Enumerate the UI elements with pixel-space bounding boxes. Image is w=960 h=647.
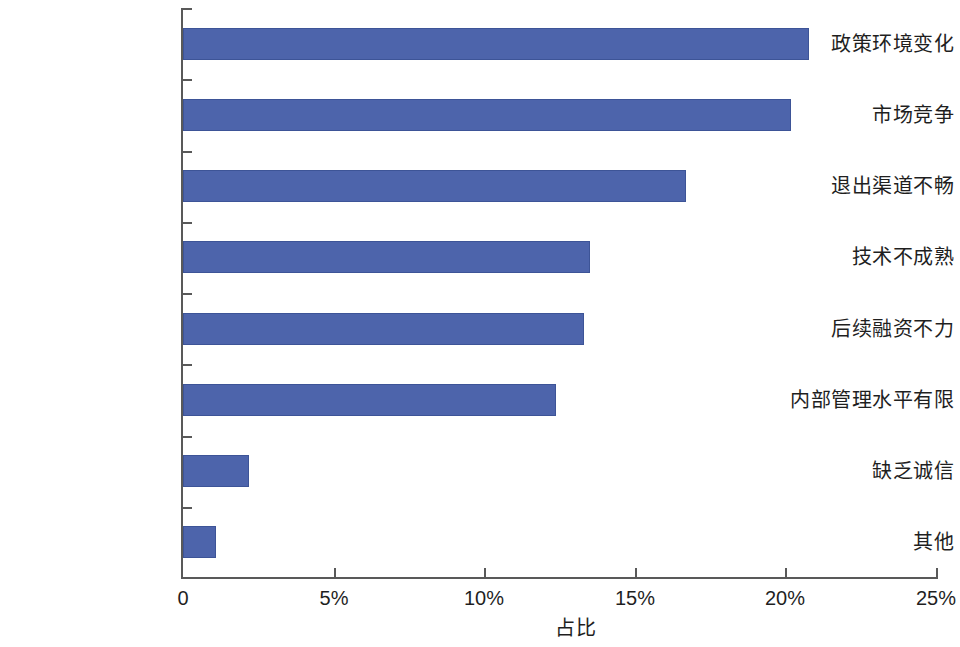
x-axis-tick	[785, 568, 787, 578]
x-axis-title: 占比	[0, 616, 960, 640]
bar-chart: 政策环境变化市场竞争退出渠道不畅技术不成熟后续融资不力内部管理水平有限缺乏诚信其…	[0, 0, 960, 647]
bar	[183, 526, 216, 558]
bar	[183, 313, 584, 345]
x-axis-tick-label: 0	[177, 586, 188, 610]
bar	[183, 384, 556, 416]
y-axis-tick	[183, 507, 192, 509]
y-axis-top-tick	[183, 8, 192, 10]
x-axis-left-cap	[181, 568, 183, 579]
y-axis-tick	[183, 222, 192, 224]
category-label: 政策环境变化	[778, 33, 960, 55]
y-axis-tick	[183, 151, 192, 153]
x-axis-tick-label: 20%	[765, 586, 805, 610]
x-axis-right-cap	[936, 568, 938, 579]
category-label: 后续融资不力	[778, 318, 960, 340]
y-axis-tick	[183, 436, 192, 438]
bar	[183, 99, 791, 131]
category-label: 缺乏诚信	[778, 460, 960, 482]
bar	[183, 28, 809, 60]
category-label: 技术不成熟	[778, 246, 960, 268]
category-label: 内部管理水平有限	[778, 389, 960, 411]
category-label: 其他	[778, 531, 960, 553]
bar	[183, 170, 686, 202]
x-axis-tick-label: 5%	[320, 586, 349, 610]
x-axis-tick	[484, 568, 486, 578]
category-label: 市场竞争	[778, 104, 960, 126]
x-axis-line	[181, 577, 938, 579]
x-axis-tick	[635, 568, 637, 578]
x-axis-tick	[334, 568, 336, 578]
category-label: 退出渠道不畅	[778, 175, 960, 197]
bar	[183, 455, 249, 487]
y-axis-tick	[183, 364, 192, 366]
bar	[183, 241, 590, 273]
x-axis-tick-label: 25%	[916, 586, 956, 610]
x-axis-tick-label: 15%	[615, 586, 655, 610]
y-axis-tick	[183, 79, 192, 81]
y-axis-tick	[183, 293, 192, 295]
x-axis-title-text: 占比	[555, 617, 597, 639]
x-axis-tick-label: 10%	[464, 586, 504, 610]
